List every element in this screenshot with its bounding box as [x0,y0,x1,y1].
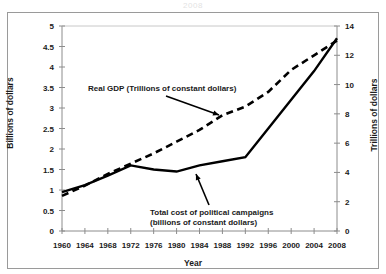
x-tick-label: 1964 [76,241,94,250]
arrow-real-gdp [166,96,219,116]
y-tick-label-left: 4.5 [43,43,55,52]
y-axis-left-label: Billions of dollars [5,72,15,154]
y-tick-label-left: 2 [50,145,55,154]
y-tick-label-left: 0.5 [43,207,55,216]
x-tick-label: 1980 [168,241,186,250]
y-tick-label-left: 0 [50,227,55,236]
annotation-campaign-cost-line2: (billions of constant dollars) [150,218,273,228]
x-tick-label: 1972 [122,241,140,250]
y-tick-label-left: 4 [50,63,55,72]
y-tick-label-right: 8 [345,110,350,119]
series-line-real-gdp [62,41,337,196]
x-tick-label: 1996 [259,241,277,250]
y-tick-label-right: 6 [345,139,350,148]
annotation-real-gdp: Real GDP (Trillions of constant dollars) [88,84,236,94]
y-tick-label-left: 1.5 [43,166,55,175]
y-tick-label-left: 3 [50,104,55,113]
chart-figure: 2008 00.511.522.533.544.5502468101214196… [0,0,386,274]
x-tick-label: 1984 [191,241,209,250]
x-tick-label: 1968 [99,241,117,250]
y-tick-label-right: 0 [345,227,350,236]
annotation-campaign-cost-line1: Total cost of political campaigns [150,208,273,218]
x-tick-label: 1960 [53,241,71,250]
x-tick-label: 2008 [328,241,346,250]
y-tick-label-right: 12 [345,51,354,60]
y-tick-label-right: 10 [345,81,354,90]
arrow-campaign-cost [196,174,209,205]
series-line-campaign-cost [62,38,337,192]
arrow-real-gdp-head [213,111,220,116]
x-tick-label: 1976 [145,241,163,250]
y-tick-label-left: 2.5 [43,125,55,134]
y-tick-label-left: 1 [50,186,55,195]
x-tick-label: 1988 [214,241,232,250]
y-tick-label-right: 4 [345,168,350,177]
annotation-campaign-cost: Total cost of political campaigns (billi… [150,208,273,228]
chart-plot-area: 00.511.522.533.544.550246810121419601964… [0,0,386,274]
y-tick-label-right: 2 [345,198,350,207]
y-tick-label-right: 14 [345,22,354,31]
x-tick-label: 2000 [282,241,300,250]
y-tick-label-left: 5 [50,22,55,31]
y-tick-label-left: 3.5 [43,84,55,93]
y-axis-right-label: Trillions of dollars [369,73,379,157]
x-tick-label: 1992 [236,241,254,250]
arrow-real-gdp-shaft [166,96,219,115]
x-axis-label: Year [0,258,386,268]
x-tick-label: 2004 [305,241,323,250]
